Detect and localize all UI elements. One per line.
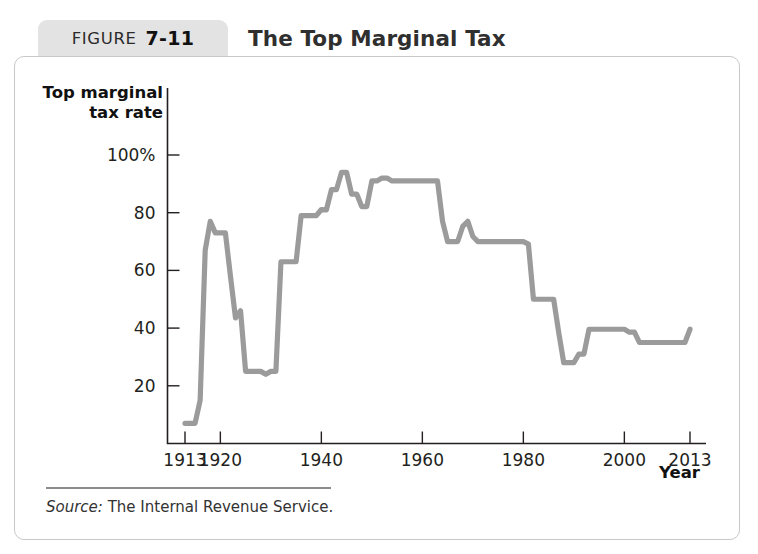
source-note: Source: The Internal Revenue Service. xyxy=(46,498,333,516)
figure-label: FIGURE xyxy=(72,29,137,48)
source-divider xyxy=(46,487,331,489)
source-prefix: Source: xyxy=(46,498,103,516)
figure-title: The Top Marginal Tax xyxy=(248,20,506,56)
figure-header: FIGURE 7-11 The Top Marginal Tax xyxy=(0,0,758,58)
figure-number: 7-11 xyxy=(145,27,194,49)
source-text: The Internal Revenue Service. xyxy=(108,498,334,516)
figure-number-tab: FIGURE 7-11 xyxy=(38,20,228,56)
figure-tab-content: FIGURE 7-11 xyxy=(38,20,228,56)
figure-card xyxy=(14,56,740,540)
